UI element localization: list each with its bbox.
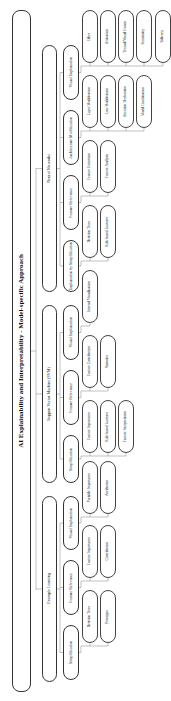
method-node: Visual Explanation [63,496,79,550]
category-node-label: Support Vector Machine (SVM) [47,367,51,421]
technique-node-label: Feature Extraction [88,153,92,180]
technique-node-label: Internal Visualization [88,281,92,312]
category-node: Support Vector Machine (SVM) [42,305,57,483]
technique-node: Attribution [100,461,116,514]
technique-node-label: Prototype [106,610,110,624]
technique-node: Feature Importance [82,400,98,453]
technique-node: Saliency [155,10,171,63]
technique-node: Variable Importance [82,461,98,514]
technique-node: Rule-based Learners [100,400,116,453]
method-node: Visual Explanation [63,305,79,360]
technique-node: Model Combination [136,75,152,128]
technique-node: Textual/Visual Fusion [118,10,134,63]
technique-node: Loss Modification [100,75,116,128]
technique-node-label: Rule-based Learners [106,217,110,247]
technique-node-label: Saliency [161,30,165,42]
technique-node-label: Decision Trees [88,606,92,627]
method-node: Visual Explanation [63,45,79,100]
technique-node-label: Loss Modification [106,88,110,114]
method-node-label: Feature Relevance [69,383,73,413]
technique-node-label: Feature Analysis [106,154,110,178]
technique-node-label: Rule-based Learners [106,412,110,442]
technique-node-label: Variable Importance [88,473,92,502]
method-node: Feature Relevance [63,560,79,615]
method-node: Architecture Modification [63,110,79,165]
method-node-label: Visual Explanation [69,317,73,348]
technique-node-label: Activation [106,29,110,44]
technique-node: Feature Interpretation [118,400,134,453]
technique-node-label: Decision Trees [88,221,92,242]
technique-node-label: Attribution [106,480,110,496]
category-node-label: Neural Networks [47,154,51,183]
method-node-label: Explanation by Simplification [69,242,73,290]
technique-node: Statistics [100,335,116,388]
technique-node-label: Filter [88,33,92,41]
technique-node: Feature Importance [82,525,98,578]
technique-node: Layer Modification [82,75,98,128]
category-node: Example Learning [42,496,57,682]
method-node: Feature Relevance [63,370,79,425]
technique-node-label: Layer Modification [88,87,92,115]
technique-node: Feature Extraction [82,140,98,193]
technique-node: Rule-based Learners [100,205,116,258]
technique-node-label: Textual/Visual Fusion [124,21,128,53]
technique-node-label: Feature Interpretation [124,411,128,442]
technique-node-label: Sensitivity [142,29,146,44]
method-node: Simplification [63,435,79,483]
method-node-label: Feature Relevance [69,188,73,218]
technique-node-label: Attention Mechanism [124,86,128,117]
technique-node: Sensitivity [136,10,152,63]
root-node: AI Explainability and Interpretability -… [12,10,31,692]
technique-node: Feature Contribution [82,335,98,388]
method-node: Explanation by Simplification [63,240,79,292]
technique-node-label: Contribution [106,542,110,560]
technique-node-label: Model Combination [142,87,146,116]
technique-node: Internal Visualization [82,270,98,323]
technique-node-label: Feature Importance [88,412,92,440]
method-node-label: Visual Explanation [69,57,73,88]
method-node-label: Architecture Modification [69,117,73,159]
technique-node: Filter [82,10,98,63]
root-title: AI Explainability and Interpretability -… [18,254,25,448]
technique-node: Decision Trees [82,590,98,643]
method-node: Simplification [63,625,79,680]
category-node-label: Example Learning [47,573,51,604]
technique-node: Prototype [100,590,116,643]
technique-node-label: Feature Importance [88,537,92,565]
technique-node: Activation [100,10,116,63]
method-node: Feature Relevance [63,175,79,230]
technique-node: Feature Analysis [100,140,116,193]
method-node-label: Simplification [69,641,73,664]
technique-node-label: Feature Contribution [88,346,92,376]
category-node: Neural Networks [42,45,57,292]
technique-node: Contribution [100,525,116,578]
technique-node: Attention Mechanism [118,75,134,128]
method-node-label: Visual Explanation [69,508,73,539]
method-node-label: Simplification [69,448,73,471]
technique-node: Decision Trees [82,205,98,258]
method-node-label: Feature Relevance [69,573,73,603]
technique-node-label: Statistics [106,355,110,368]
